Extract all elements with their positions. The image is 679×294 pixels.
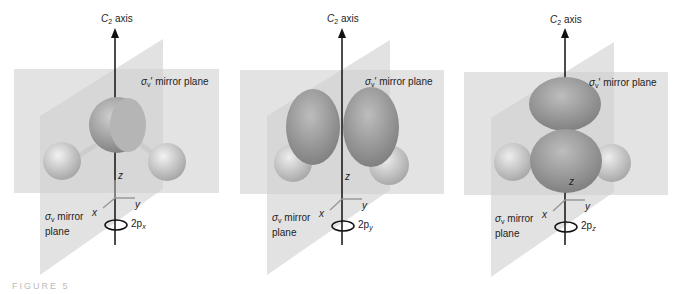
z-axis-label: z [118,170,123,181]
y-axis-label: y [135,199,140,210]
panel-2px-graphic [0,0,226,294]
x-axis-label: x [92,207,97,218]
sigma-label: σv mirrorplane [495,213,533,240]
x-axis-label: x [319,208,324,219]
sigma-prime-label: σv′ mirror plane [365,76,433,88]
y-axis-label: y [362,200,367,211]
panel-2px: C2 axis σv′ mirror plane z y x σv mirror… [0,0,226,294]
sigma-label: σv mirrorplane [45,211,83,238]
panel-2py: C2 axis σv′ mirror plane z y x σv mirror… [225,0,451,294]
panel-2pz-graphic [449,0,679,294]
orbital-label: 2py [358,219,373,231]
panel-2pz: C2 axis σv′ mirror plane z y x σv mirror… [449,0,675,294]
x-axis-label: x [542,209,547,220]
sigma-prime-label: σv′ mirror plane [141,76,209,88]
c2-axis-label: C2 axis [101,13,133,25]
z-axis-label: z [345,171,350,182]
sigma-label: σv mirrorplane [272,212,310,239]
y-axis-label: y [585,201,590,212]
panel-2py-graphic [225,0,451,294]
c2-axis-label: C2 axis [327,13,359,25]
orbital-label: 2pz [581,220,596,232]
c2-axis-label: C2 axis [550,14,582,26]
z-axis-label: z [569,176,574,187]
sigma-prime-label: σv′ mirror plane [589,77,657,89]
figure-caption: FIGURE 5 [12,281,70,291]
orbital-label: 2px [131,218,146,230]
